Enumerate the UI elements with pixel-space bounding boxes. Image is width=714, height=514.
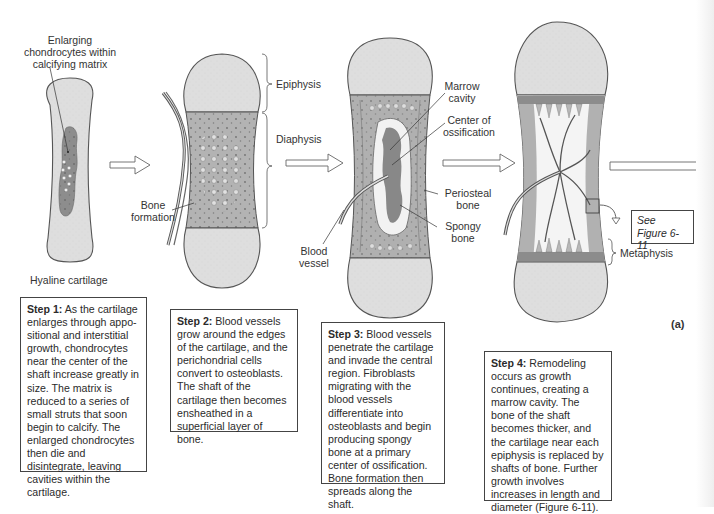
stage1-cartilage-model	[47, 68, 93, 262]
label-center-of-ossification: Center of ossification	[438, 114, 500, 138]
label-hyaline-cartilage: Hyaline cartilage	[30, 274, 108, 286]
label-line: formation	[128, 211, 178, 223]
label-line: Blood	[294, 245, 334, 257]
label-line: cavity	[437, 92, 487, 104]
label-metaphysis: Metaphysis	[620, 247, 673, 259]
page-edge-shadow	[696, 0, 714, 507]
label-line: bone	[438, 199, 498, 211]
label-line: Spongy	[438, 220, 488, 232]
label-line: Center of	[438, 114, 500, 126]
label-line: calcifying matrix	[20, 58, 120, 70]
label-line: bone	[438, 232, 488, 244]
label-enlarging-chondrocytes: Enlarging chondrocytes within calcifying…	[20, 34, 120, 70]
panel-label: (a)	[671, 318, 684, 330]
step1-box: Step 1: As the cartilage enlarges throug…	[20, 297, 147, 472]
step3-text: Blood vessels penetrate the cartilage an…	[328, 328, 433, 510]
label-spongy-bone: Spongy bone	[438, 220, 488, 244]
step4-box: Step 4: Remodeling occurs as growth cont…	[484, 351, 612, 501]
step2-text: Blood vessels grow around the edges of t…	[177, 315, 288, 445]
arrow-step2-to-step3	[286, 154, 343, 172]
label-bone-formation: Bone formation	[128, 199, 178, 223]
stage2-bone-collar	[163, 54, 272, 288]
label-line: Marrow	[437, 80, 487, 92]
label-diaphysis: Diaphysis	[276, 133, 322, 145]
stage4-remodeling	[505, 22, 620, 322]
label-blood-vessel: Blood vessel	[294, 245, 334, 269]
arrow-step1-to-step2	[110, 156, 150, 174]
label-line: See	[637, 214, 688, 227]
label-line: Periosteal	[438, 187, 498, 199]
step2-title: Step 2:	[177, 315, 212, 327]
label-line: chondrocytes within	[20, 46, 120, 58]
label-line: Bone	[128, 199, 178, 211]
step4-title: Step 4:	[491, 357, 526, 369]
step3-box: Step 3: Blood vessels penetrate the cart…	[321, 322, 445, 484]
stage3-primary-ossification	[323, 38, 445, 318]
step3-title: Step 3:	[328, 328, 363, 340]
step2-box: Step 2: Blood vessels grow around the ed…	[170, 309, 298, 432]
step1-title: Step 1:	[27, 303, 62, 315]
label-periosteal-bone: Periosteal bone	[438, 187, 498, 211]
step1-text: As the cartilage enlarges through appo-s…	[27, 303, 139, 498]
arrow-step3-to-step4	[443, 154, 515, 172]
label-line: Enlarging	[20, 34, 120, 46]
label-epiphysis: Epiphysis	[276, 78, 321, 90]
label-marrow-cavity: Marrow cavity	[437, 80, 487, 104]
label-line: vessel	[294, 257, 334, 269]
see-figure-6-11-callout: See Figure 6-11	[631, 210, 694, 244]
label-line: ossification	[438, 126, 500, 138]
step4-text: Remodeling occurs as growth continues, c…	[491, 357, 603, 513]
